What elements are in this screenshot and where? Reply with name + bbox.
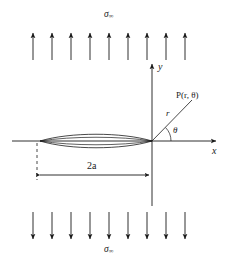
figure-canvas [0, 0, 232, 271]
radius-ray [152, 100, 192, 141]
theta-arc [166, 128, 171, 141]
crack-length-label: 2a [87, 161, 96, 171]
field-point-label: P(r, θ) [176, 91, 198, 100]
top-stress-label: σ∞ [104, 10, 113, 20]
bottom-stress-arrows [33, 212, 185, 239]
fracture-mechanics-figure: σ∞ σ∞ y x P(r, θ) r θ 2a [0, 0, 232, 271]
top-stress-arrows [33, 33, 185, 60]
angle-label: θ [173, 126, 177, 135]
radius-label: r [166, 109, 170, 118]
x-axis-label: x [212, 146, 216, 156]
bottom-stress-label: σ∞ [104, 245, 113, 255]
y-axis-label: y [158, 62, 162, 72]
